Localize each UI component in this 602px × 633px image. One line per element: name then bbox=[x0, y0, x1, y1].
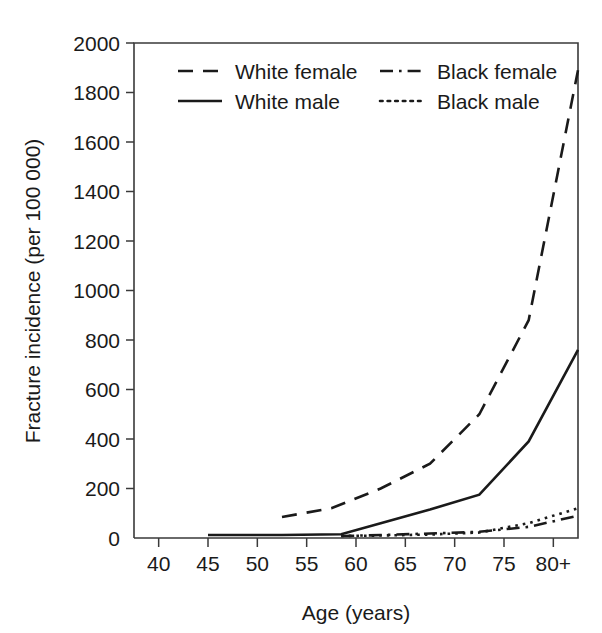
y-tick-label: 600 bbox=[85, 378, 120, 401]
x-tick-label: 55 bbox=[295, 552, 318, 575]
x-tick-label: 45 bbox=[196, 552, 219, 575]
legend-label-black-male: Black male bbox=[437, 90, 540, 113]
x-tick-label: 50 bbox=[246, 552, 269, 575]
y-tick-label: 1800 bbox=[73, 81, 120, 104]
y-tick-label: 0 bbox=[108, 527, 120, 550]
y-axis-title: Fracture incidence (per 100 000) bbox=[21, 139, 44, 444]
y-tick-label: 1600 bbox=[73, 131, 120, 154]
y-tick-label: 1200 bbox=[73, 230, 120, 253]
x-axis-title: Age (years) bbox=[302, 601, 411, 624]
x-tick-label: 40 bbox=[147, 552, 170, 575]
y-tick-label: 200 bbox=[85, 477, 120, 500]
legend-label-white-male: White male bbox=[235, 90, 340, 113]
fracture-incidence-line-chart: 0200400600800100012001400160018002000 40… bbox=[0, 0, 602, 633]
figure-container: 0200400600800100012001400160018002000 40… bbox=[0, 0, 602, 633]
y-tick-label: 1400 bbox=[73, 180, 120, 203]
legend-label-black-female: Black female bbox=[437, 60, 557, 83]
y-tick-label: 800 bbox=[85, 329, 120, 352]
x-tick-label: 60 bbox=[344, 552, 367, 575]
y-tick-label: 400 bbox=[85, 428, 120, 451]
x-tick-label: 70 bbox=[443, 552, 466, 575]
x-tick-label: 80+ bbox=[536, 552, 572, 575]
x-tick-label: 65 bbox=[394, 552, 417, 575]
legend-label-white-female: White female bbox=[235, 60, 358, 83]
y-tick-label: 1000 bbox=[73, 279, 120, 302]
x-tick-label: 75 bbox=[492, 552, 515, 575]
y-tick-label: 2000 bbox=[73, 32, 120, 55]
